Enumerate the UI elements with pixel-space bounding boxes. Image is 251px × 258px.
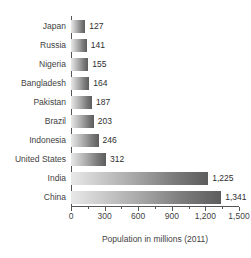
bar-value-label: 1,341 bbox=[225, 188, 246, 207]
bar bbox=[71, 115, 94, 128]
x-axis-tick-label: 600 bbox=[131, 211, 145, 221]
category-label: India bbox=[0, 169, 66, 188]
bar bbox=[71, 39, 87, 52]
x-axis-tick-label: 900 bbox=[165, 211, 179, 221]
bar-row: United States312 bbox=[0, 150, 251, 169]
bar-value-label: 164 bbox=[93, 74, 107, 93]
bar bbox=[71, 58, 88, 71]
category-label: Bangladesh bbox=[0, 74, 66, 93]
bar-row: Nigeria155 bbox=[0, 55, 251, 74]
x-axis-tick-label: 0 bbox=[69, 211, 74, 221]
bar-row: Russia141 bbox=[0, 36, 251, 55]
bar-value-label: 127 bbox=[89, 17, 103, 36]
bar-value-label: 312 bbox=[110, 150, 124, 169]
x-axis-minor-tick bbox=[222, 207, 223, 209]
bar-value-label: 141 bbox=[91, 36, 105, 55]
bar-value-label: 1,225 bbox=[212, 169, 233, 188]
category-label: Japan bbox=[0, 17, 66, 36]
category-label: United States bbox=[0, 150, 66, 169]
x-axis-tick-label: 300 bbox=[98, 211, 112, 221]
bar-row: Brazil203 bbox=[0, 112, 251, 131]
x-axis-minor-tick bbox=[88, 207, 89, 209]
bar-row: Pakistan187 bbox=[0, 93, 251, 112]
category-label: Nigeria bbox=[0, 55, 66, 74]
bar-value-label: 155 bbox=[92, 55, 106, 74]
category-label: Russia bbox=[0, 36, 66, 55]
x-axis-tick-label: 1,200 bbox=[195, 211, 216, 221]
bar-row: Bangladesh164 bbox=[0, 74, 251, 93]
category-label: China bbox=[0, 188, 66, 207]
bar-row: India1,225 bbox=[0, 169, 251, 188]
x-axis-minor-tick bbox=[155, 207, 156, 209]
bar bbox=[71, 20, 85, 33]
bar-value-label: 203 bbox=[98, 112, 112, 131]
bar bbox=[71, 153, 106, 166]
x-axis-minor-tick bbox=[121, 207, 122, 209]
bar bbox=[71, 96, 92, 109]
bar-row: Indonesia246 bbox=[0, 131, 251, 150]
x-axis-tick-label: 1,500 bbox=[228, 211, 249, 221]
bar bbox=[71, 191, 221, 204]
category-label: Brazil bbox=[0, 112, 66, 131]
category-label: Pakistan bbox=[0, 93, 66, 112]
bar bbox=[71, 172, 208, 185]
x-axis-minor-tick bbox=[189, 207, 190, 209]
chart-plot-area: Japan127Russia141Nigeria155Bangladesh164… bbox=[0, 0, 251, 258]
bar-value-label: 187 bbox=[96, 93, 110, 112]
bar-row: China1,341 bbox=[0, 188, 251, 207]
x-axis-title: Population in millions (2011) bbox=[71, 234, 239, 244]
category-label: Indonesia bbox=[0, 131, 66, 150]
bar-value-label: 246 bbox=[103, 131, 117, 150]
bar bbox=[71, 134, 99, 147]
bar-row: Japan127 bbox=[0, 17, 251, 36]
bar bbox=[71, 77, 89, 90]
